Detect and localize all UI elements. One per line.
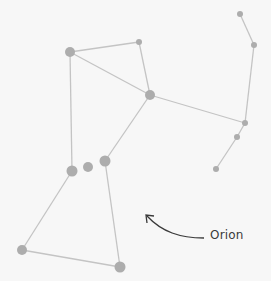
constellation-diagram: Orion (0, 0, 271, 281)
constellation-line (105, 161, 120, 267)
star-K (100, 156, 111, 167)
constellation-line (216, 137, 237, 169)
star-E (251, 42, 257, 48)
arrow-icon (146, 215, 204, 238)
constellation-line (22, 250, 120, 267)
constellation-line (105, 95, 150, 161)
star-I (67, 166, 78, 177)
constellation-line (70, 52, 150, 95)
star-L (17, 245, 27, 255)
constellation-line (139, 42, 150, 95)
star-G (234, 134, 240, 140)
star-A (65, 47, 75, 57)
constellation-line (22, 171, 72, 250)
star-D (237, 11, 243, 17)
star-C (145, 90, 155, 100)
constellation-label: Orion (210, 228, 244, 242)
star-J (83, 162, 93, 172)
star-M (115, 262, 126, 273)
constellation-line (245, 45, 254, 123)
star-F (242, 120, 248, 126)
star-B (136, 39, 142, 45)
constellation-line (240, 14, 254, 45)
constellation-line (70, 42, 139, 52)
star-H (213, 166, 219, 172)
constellation-line (150, 95, 245, 123)
constellation-line (70, 52, 72, 171)
